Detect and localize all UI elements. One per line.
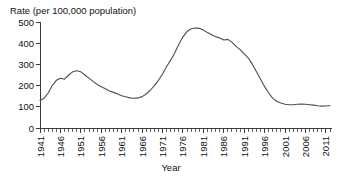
data-line-rate bbox=[40, 28, 330, 106]
x-tick-label: 1986 bbox=[218, 136, 229, 157]
line-chart-plot: 0100200300400500 19411946195119561961196… bbox=[0, 0, 342, 176]
data-series-group bbox=[40, 28, 330, 106]
x-tick-label: 2001 bbox=[280, 136, 291, 157]
y-tick-label: 100 bbox=[18, 101, 34, 112]
x-tick-label: 1981 bbox=[198, 136, 209, 157]
y-tick-label: 0 bbox=[29, 123, 34, 134]
y-tick-label: 500 bbox=[18, 17, 34, 28]
x-tick-label: 1966 bbox=[137, 136, 148, 157]
y-axis: 0100200300400500 bbox=[18, 17, 40, 134]
x-tick-label: 1991 bbox=[239, 136, 250, 157]
x-tick-label: 1946 bbox=[55, 136, 66, 157]
x-tick-label: 1961 bbox=[116, 136, 127, 157]
x-tick-label: 1956 bbox=[96, 136, 107, 157]
chart-figure: Rate (per 100,000 population) 0100200300… bbox=[0, 0, 342, 176]
x-tick-label: 1996 bbox=[259, 136, 270, 157]
x-tick-label: 1971 bbox=[157, 136, 168, 157]
x-tick-label: 1976 bbox=[177, 136, 188, 157]
y-tick-label: 400 bbox=[18, 38, 34, 49]
x-tick-label: 2006 bbox=[300, 136, 311, 157]
y-tick-label: 200 bbox=[18, 80, 34, 91]
x-axis: 1941194619511956196119661971197619811986… bbox=[35, 128, 333, 157]
x-tick-label: 2011 bbox=[320, 136, 331, 156]
x-tick-label: 1951 bbox=[75, 136, 86, 157]
y-tick-label: 300 bbox=[18, 59, 34, 70]
x-axis-title: Year bbox=[0, 162, 342, 173]
x-tick-label: 1941 bbox=[35, 136, 46, 157]
